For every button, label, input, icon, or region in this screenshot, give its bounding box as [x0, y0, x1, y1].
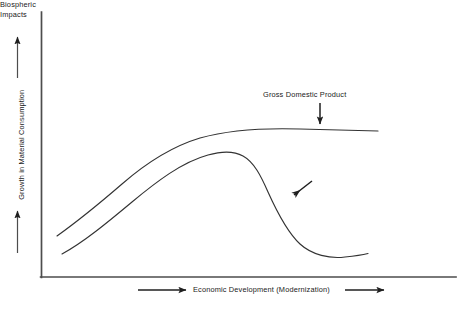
chart-plot-area: [0, 0, 474, 310]
chart-figure: Gross Domestic Product Biospheric Impact…: [0, 0, 474, 310]
y-axis-title: Growth in Material Consumption: [17, 75, 27, 215]
biospheric-curve: [62, 152, 368, 257]
gdp-annotation-label: Gross Domestic Product: [263, 90, 346, 100]
biospheric-annotation-arrow: [294, 181, 312, 195]
gdp-curve: [57, 129, 378, 236]
x-axis-title: Economic Development (Modernization): [193, 285, 330, 295]
